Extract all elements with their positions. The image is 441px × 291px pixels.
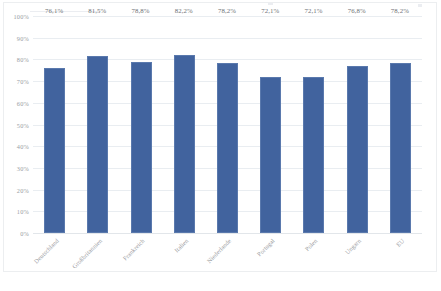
scan-artifact [418, 4, 422, 7]
bar[interactable]: 78,8% [131, 62, 152, 233]
x-label-slot: Italien [163, 233, 206, 278]
x-axis-category-label: Ungarn [344, 237, 363, 256]
y-axis-tick-label: 70% [17, 78, 29, 85]
y-axis-tick-label: 40% [17, 143, 29, 150]
x-axis-labels: DeutschlandGroßbritannienFrankreichItali… [33, 233, 422, 278]
bar-group: 78,2% [206, 16, 249, 233]
bar-value-label: 78,2% [218, 7, 236, 14]
y-axis-tick-label: 80% [17, 56, 29, 63]
x-axis-category-label: EU [394, 237, 405, 248]
x-label-slot: Portugal [249, 233, 292, 278]
y-axis-tick-label: 10% [17, 208, 29, 215]
bar-group: 72,1% [292, 16, 335, 233]
x-axis-category-label: Polen [304, 237, 319, 252]
bar[interactable]: 82,2% [174, 55, 195, 233]
bar-value-label: 76,1% [45, 7, 63, 14]
chart-screenshot: 100%90%80%70%60%50%40%30%20%10%0% 76,1%8… [0, 0, 441, 291]
bar[interactable]: 78,2% [217, 63, 238, 233]
bar-group: 82,2% [163, 16, 206, 233]
y-axis-tick-label: 100% [14, 13, 30, 20]
y-axis-tick-label: 60% [17, 99, 29, 106]
bar[interactable]: 72,1% [303, 77, 324, 233]
x-axis-category-label: Deutschland [32, 237, 60, 265]
bar[interactable]: 76,1% [44, 68, 65, 233]
x-axis-category-label: Portugal [255, 237, 275, 257]
x-label-slot: Großbritannien [76, 233, 119, 278]
x-label-slot: Ungarn [336, 233, 379, 278]
bar-group: 72,1% [249, 16, 292, 233]
bar-value-label: 78,2% [391, 7, 409, 14]
bar-value-label: 81,5% [88, 7, 106, 14]
y-axis-tick-label: 30% [17, 164, 29, 171]
bar[interactable]: 78,2% [390, 63, 411, 233]
bar-value-label: 82,2% [175, 7, 193, 14]
bar-value-label: 72,1% [261, 7, 279, 14]
x-label-slot: Frankreich [119, 233, 162, 278]
bar[interactable]: 76,8% [347, 66, 368, 233]
y-axis-tick-label: 0% [20, 230, 29, 237]
bar-group: 76,8% [336, 16, 379, 233]
bar-value-label: 76,8% [348, 7, 366, 14]
scan-artifact [268, 3, 273, 5]
x-label-slot: Deutschland [33, 233, 76, 278]
x-axis-category-label: Niederlande [205, 237, 232, 264]
bar[interactable]: 72,1% [260, 77, 281, 233]
y-axis-tick-label: 50% [17, 121, 29, 128]
bar-group: 76,1% [33, 16, 76, 233]
bar-group: 78,8% [119, 16, 162, 233]
bar[interactable]: 81,5% [87, 56, 108, 233]
bar-group: 78,2% [379, 16, 422, 233]
bar-value-label: 78,8% [132, 7, 150, 14]
x-axis-category-label: Frankreich [121, 237, 146, 262]
plot-area: 100%90%80%70%60%50%40%30%20%10%0% 76,1%8… [33, 16, 422, 233]
y-axis-tick-label: 90% [17, 34, 29, 41]
bar-series: 76,1%81,5%78,8%82,2%78,2%72,1%72,1%76,8%… [33, 16, 422, 233]
bar-group: 81,5% [76, 16, 119, 233]
x-label-slot: Polen [292, 233, 335, 278]
x-axis-category-label: Italien [173, 237, 190, 254]
bar-value-label: 72,1% [304, 7, 322, 14]
x-label-slot: EU [379, 233, 422, 278]
y-axis-tick-label: 20% [17, 186, 29, 193]
x-label-slot: Niederlande [206, 233, 249, 278]
